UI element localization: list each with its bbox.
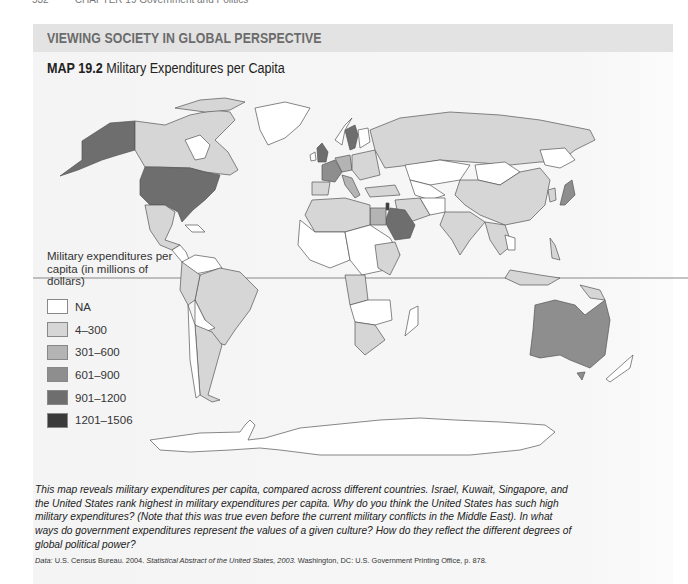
region-sweden xyxy=(345,125,358,150)
legend-swatch-601-900 xyxy=(47,367,68,382)
legend-item-1201-1506: 1201–1506 xyxy=(47,409,187,432)
region-alaska xyxy=(60,121,135,176)
region-new-zealand xyxy=(606,355,633,382)
region-turkey xyxy=(365,185,400,197)
region-antarctica xyxy=(150,418,555,455)
legend-swatch-901-1200 xyxy=(47,390,68,405)
region-indonesia xyxy=(505,270,560,285)
legend-swatch-na xyxy=(47,299,68,314)
legend-item-4-300: 4–300 xyxy=(47,318,187,341)
region-mexico xyxy=(145,205,180,250)
legend-label: 301–600 xyxy=(75,346,120,358)
legend-item-901-1200: 901–1200 xyxy=(47,386,187,409)
source-rest: Washington, DC: U.S. Government Printing… xyxy=(298,556,487,565)
legend-item-na: NA xyxy=(47,296,187,319)
legend-label: NA xyxy=(75,301,91,313)
region-eastern-europe xyxy=(352,150,380,180)
region-italy xyxy=(342,175,360,198)
region-angola xyxy=(345,275,368,305)
data-source: Data: U.S. Census Bureau. 2004. Statisti… xyxy=(35,556,487,565)
source-title: Statistical Abstract of the United State… xyxy=(146,556,295,565)
legend-swatch-301-600 xyxy=(47,345,68,360)
region-spain xyxy=(312,182,330,195)
region-egypt xyxy=(370,208,386,225)
legend-title: Military expenditures per capita (in mil… xyxy=(47,250,187,288)
region-israel xyxy=(386,203,389,210)
legend-swatch-1201-1506 xyxy=(47,413,68,428)
legend-label: 601–900 xyxy=(75,369,120,381)
source-author: U.S. Census Bureau. 2004. xyxy=(55,556,145,565)
region-united-kingdom xyxy=(317,143,328,162)
region-japan xyxy=(560,180,575,205)
legend-label: 4–300 xyxy=(75,324,107,336)
legend-label: 901–1200 xyxy=(75,392,126,404)
region-southern-africa xyxy=(350,300,392,325)
region-finland xyxy=(358,128,370,148)
region-australia xyxy=(530,300,610,368)
legend-label: 1201–1506 xyxy=(75,414,133,426)
legend-swatch-4-300 xyxy=(47,322,68,337)
map-legend: Military expenditures per capita (in mil… xyxy=(47,250,187,432)
region-madagascar xyxy=(405,306,418,336)
region-greenland xyxy=(255,102,310,145)
map-caption: This map reveals military expenditures p… xyxy=(35,483,574,552)
region-south-africa xyxy=(355,322,385,355)
legend-item-601-900: 601–900 xyxy=(47,364,187,387)
source-prefix: Data: xyxy=(35,556,53,565)
legend-item-301-600: 301–600 xyxy=(47,341,187,364)
region-north-africa xyxy=(305,198,370,232)
region-india xyxy=(440,212,485,255)
